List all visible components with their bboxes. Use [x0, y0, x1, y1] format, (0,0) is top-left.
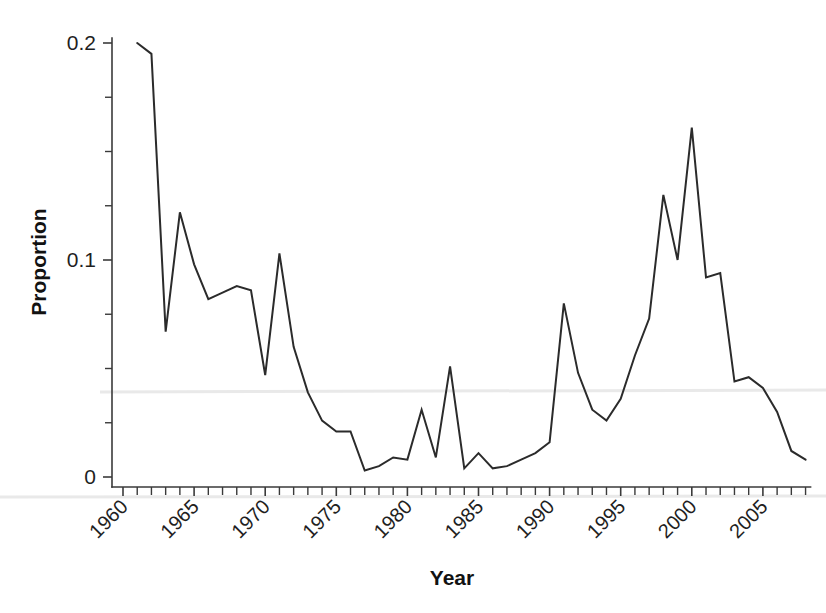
x-tick-label: 1980: [369, 495, 416, 542]
x-tick-label: 1975: [298, 495, 345, 542]
x-tick-label: 2005: [725, 495, 772, 542]
y-axis-title: Proportion: [27, 208, 50, 315]
x-tick-label: 1965: [156, 495, 203, 542]
x-axis-title: Year: [430, 566, 474, 589]
y-axis-tick-labels: 00.10.2: [67, 31, 96, 488]
chart-figure: 00.10.2 19601965197019751980198519901995…: [0, 0, 826, 613]
y-tick-label: 0.1: [67, 248, 96, 271]
data-series-line: [137, 43, 805, 470]
x-tick-label: 1990: [511, 495, 558, 542]
line-chart-canvas: 00.10.2 19601965197019751980198519901995…: [0, 0, 826, 613]
x-tick-label: 1960: [85, 495, 132, 542]
x-tick-label: 1985: [440, 495, 487, 542]
y-axis-ticks: [103, 43, 112, 477]
chart-axes: [112, 38, 811, 487]
y-tick-label: 0: [84, 465, 96, 488]
x-tick-label: 1995: [583, 495, 630, 542]
series-proportion: [137, 43, 805, 470]
y-tick-label: 0.2: [67, 31, 96, 54]
x-axis-tick-labels: 1960196519701975198019851990199520002005: [85, 495, 772, 542]
x-tick-label: 2000: [654, 495, 701, 542]
x-tick-label: 1970: [227, 495, 274, 542]
